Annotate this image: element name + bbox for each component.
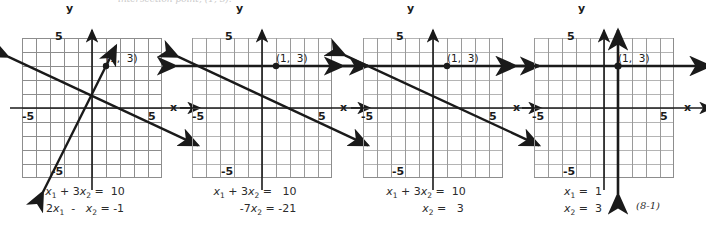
- y-axis-label-2: y: [236, 2, 243, 15]
- x-tick-negative-five-2: -5: [192, 110, 204, 123]
- eq-rhs: = -21: [262, 202, 296, 215]
- x-tick-five-2: 5: [318, 110, 326, 123]
- x-axis-label-4: x: [684, 101, 691, 114]
- equation-row-4-1: x1 = 1: [520, 183, 690, 200]
- point-label-3: (1, 3): [447, 52, 479, 64]
- point-label-2: (1, 3): [276, 52, 308, 64]
- y-tick-five-4: 5: [567, 30, 575, 43]
- graph-panel-2: x y -5 5 5 -5 (1, 3) x1 + 3x2 = 10 -7x2 …: [170, 0, 340, 227]
- x-tick-five-4: 5: [660, 110, 668, 123]
- equation-row-1-2: 2x1 - x2 = -1: [0, 200, 170, 217]
- eq-op: -: [64, 202, 85, 215]
- equation-block-1: x1 + 3x2 = 10 2x1 - x2 = -1: [0, 183, 170, 217]
- eq-rhs: = -1: [97, 202, 124, 215]
- plot-area-1: x y -5 5 5 -5 (1, 3): [22, 38, 162, 178]
- graph-panel-3: x y -5 5 5 -5 (1, 3) x1 + 3x2 = 10 x2 = …: [341, 0, 511, 227]
- y-tick-five-2: 5: [225, 30, 233, 43]
- equation-row-1-1: x1 + 3x2 = 10: [0, 183, 170, 200]
- equation-block-3: x1 + 3x2 = 10 x2 = 3: [341, 183, 511, 217]
- y-axis-label-1: y: [66, 2, 73, 15]
- eq-rhs: = 10: [91, 185, 125, 198]
- eq-rhs: = 3: [575, 202, 602, 215]
- equation-row-4-2: x2 = 3: [520, 200, 690, 217]
- equation-block-2: x1 + 3x2 = 10 -7x2 = -21: [170, 183, 340, 217]
- graph-panel-1: x y -5 5 5 -5 (1, 3) x1 + 3x2 = 10 2x1 -…: [0, 0, 170, 227]
- eq-op: + 3: [57, 185, 80, 198]
- y-tick-negative-five-1: -5: [51, 165, 63, 178]
- y-tick-five-1: 5: [55, 30, 63, 43]
- eq-rhs: = 10: [259, 185, 296, 198]
- point-label-1: (1, 3): [106, 52, 138, 64]
- x-tick-five-1: 5: [148, 110, 156, 123]
- eq-coef: 2: [46, 202, 53, 215]
- eq-rhs: = 3: [434, 202, 464, 215]
- equation-row-3-2: x2 = 3: [341, 200, 511, 217]
- eq-rhs: = 10: [432, 185, 466, 198]
- eq-op: + 3: [398, 185, 421, 198]
- y-tick-negative-five-2: -5: [221, 165, 233, 178]
- y-tick-negative-five-3: -5: [392, 165, 404, 178]
- x-tick-five-3: 5: [489, 110, 497, 123]
- x-tick-negative-five-4: -5: [532, 110, 544, 123]
- eq-op: + 3: [225, 185, 248, 198]
- plot-area-2: x y -5 5 5 -5 (1, 3): [192, 38, 332, 178]
- equation-row-2-2: -7x2 = -21: [170, 200, 340, 217]
- eq-rhs: = 1: [575, 185, 602, 198]
- eq-coef: -7: [240, 202, 251, 215]
- equation-row-3-1: x1 + 3x2 = 10: [341, 183, 511, 200]
- x-tick-negative-five-3: -5: [361, 110, 373, 123]
- x-tick-negative-five-1: -5: [22, 110, 34, 123]
- equation-block-4: x1 = 1 x2 = 3: [512, 183, 690, 217]
- plot-area-3: x y -5 5 5 -5 (1, 3): [363, 38, 503, 178]
- y-tick-negative-five-4: -5: [563, 165, 575, 178]
- plot-area-4: x y -5 5 5 -5 (1, 3): [534, 38, 674, 178]
- y-axis-label-3: y: [407, 2, 414, 15]
- y-tick-five-3: 5: [396, 30, 404, 43]
- point-label-4: (1, 3): [618, 52, 650, 64]
- figure-number-label: (8-1): [636, 200, 660, 211]
- equation-row-2-1: x1 + 3x2 = 10: [170, 183, 340, 200]
- graph-panel-4: x y -5 5 5 -5 (1, 3) x1 = 1 x2 = 3 (8-1): [512, 0, 682, 227]
- y-axis-label-4: y: [578, 2, 585, 15]
